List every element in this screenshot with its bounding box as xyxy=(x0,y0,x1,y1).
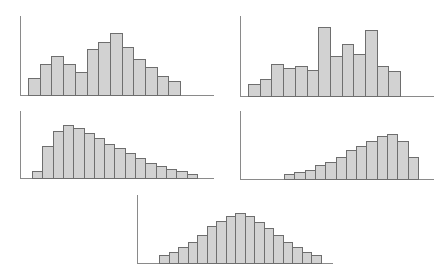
y-axis-line xyxy=(20,16,21,96)
y-axis-line xyxy=(240,16,241,97)
histogram-bar xyxy=(187,174,198,179)
histogram-bar xyxy=(408,157,419,180)
histogram-bar xyxy=(168,81,181,96)
y-axis-line xyxy=(20,111,21,179)
histogram-bar xyxy=(388,71,401,97)
histogram-bar xyxy=(311,255,322,264)
y-axis-line xyxy=(240,111,241,180)
y-axis-line xyxy=(137,195,138,264)
